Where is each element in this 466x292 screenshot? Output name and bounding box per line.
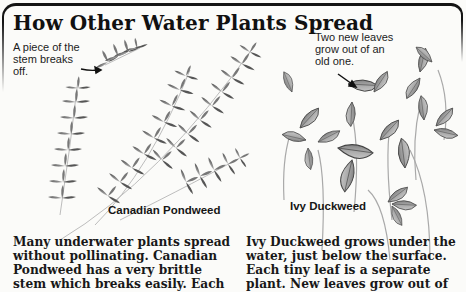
callout-line: stem breaks xyxy=(13,53,80,65)
callout-stem-breaks: A piece of the stem breaks off. xyxy=(13,41,80,77)
pondweed-leaves xyxy=(48,35,267,205)
body-line: water, just below the surface. xyxy=(246,249,456,263)
arrow-down-right-icon xyxy=(338,74,356,87)
body-line: plant. New leaves grow out of xyxy=(246,277,456,291)
label-ivy-duckweed: Ivy Duckweed xyxy=(290,200,366,212)
label-canadian-pondweed: Canadian Pondweed xyxy=(108,204,220,216)
body-line: stem which breaks easily. Each xyxy=(13,277,230,291)
callout-line: off. xyxy=(13,65,80,77)
callout-line: Two new leaves xyxy=(315,31,393,43)
body-line: Pondweed has a very brittle xyxy=(13,263,230,277)
body-line: Each tiny leaf is a separate xyxy=(246,263,456,277)
body-line: Ivy Duckweed grows under the xyxy=(246,235,456,249)
body-line: without pollinating. Canadian xyxy=(13,249,230,263)
body-line: Many underwater plants spread xyxy=(13,235,230,249)
arrow-right-icon xyxy=(81,67,101,73)
callout-line: grow out of an xyxy=(315,43,393,55)
body-text-right-column: Ivy Duckweed grows under the water, just… xyxy=(246,235,456,291)
callout-line: A piece of the xyxy=(13,41,80,53)
callout-line: old one. xyxy=(315,55,393,67)
body-text-left-column: Many underwater plants spread without po… xyxy=(13,235,230,291)
textbook-page: How Other Water Plants Spread xyxy=(0,0,466,292)
callout-new-leaves: Two new leaves grow out of an old one. xyxy=(315,31,393,67)
